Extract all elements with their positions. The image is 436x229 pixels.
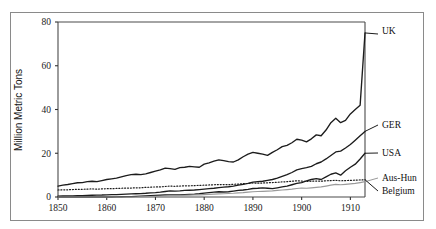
x-tick-label: 1880 (195, 203, 214, 213)
y-tick-label: 40 (42, 105, 52, 115)
series-leader-lines (365, 33, 378, 191)
leader-line-belgium (365, 180, 378, 191)
leader-line-uk (365, 33, 378, 34)
y-tick-label: 60 (42, 61, 52, 71)
x-tick-label: 1860 (97, 203, 116, 213)
series-label-usa: USA (382, 148, 401, 158)
x-tick-label: 1850 (49, 203, 68, 213)
series-line-usa (58, 153, 365, 197)
figure-container: 020406080 1850186018701880189019001910 M… (0, 0, 436, 229)
x-tick-label: 1870 (146, 203, 165, 213)
line-chart: 020406080 1850186018701880189019001910 M… (0, 0, 436, 229)
y-tick-label: 0 (46, 192, 51, 202)
y-axis-tick-labels: 020406080 (42, 17, 52, 202)
y-tick-label: 20 (42, 149, 52, 159)
y-tick-label: 80 (42, 17, 52, 27)
leader-line-ger (365, 125, 378, 131)
series-label-uk: UK (382, 26, 396, 36)
x-tick-label: 1910 (341, 203, 360, 213)
series-label-aus-hun: Aus-Hun (382, 173, 417, 183)
series-label-ger: GER (382, 120, 402, 130)
x-axis-tick-labels: 1850186018701880189019001910 (49, 203, 361, 213)
data-series-group (58, 33, 365, 197)
x-tick-label: 1900 (292, 203, 311, 213)
series-line-ger (58, 131, 365, 196)
x-tick-label: 1890 (243, 203, 262, 213)
y-axis-title: Million Metric Tons (13, 69, 24, 151)
series-label-belgium: Belgium (382, 186, 415, 196)
